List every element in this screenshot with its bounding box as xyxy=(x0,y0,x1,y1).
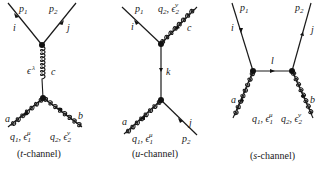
arrow-icon xyxy=(239,28,243,33)
label-p2: p2 xyxy=(181,133,191,146)
vertex xyxy=(289,68,295,74)
arrow-icon xyxy=(270,69,275,73)
label-p2: p2 xyxy=(48,3,58,16)
label-c: c xyxy=(51,66,56,77)
label-q1-eps1: q1, ϵ1μ xyxy=(252,111,273,126)
arrow-icon xyxy=(300,32,304,36)
label-a: a xyxy=(231,94,236,105)
arrow-icon xyxy=(159,68,163,72)
label-q2-eps2: q2, ϵ2ν xyxy=(158,1,180,16)
label-i: i xyxy=(13,22,16,33)
gluon-line-c xyxy=(41,46,46,98)
label-a: a xyxy=(5,113,10,124)
vertex xyxy=(40,95,46,101)
caption-s-channel: (s-channel) xyxy=(250,150,295,162)
s-channel-diagram: p1 p2 i j l a b q1, ϵ1μ q2, ϵ2ν (s-chann… xyxy=(231,2,315,162)
vertex xyxy=(39,42,45,48)
label-q1-eps1: q1, ϵ1μ xyxy=(132,131,153,146)
vertex xyxy=(158,41,164,47)
gluon-line-b xyxy=(42,96,83,128)
label-i: i xyxy=(231,22,234,33)
fermion-line-i xyxy=(232,3,253,71)
label-q2-eps2: q2, ϵ2ν xyxy=(281,111,303,126)
caption-u-channel: (u-channel) xyxy=(132,148,178,160)
label-j: j xyxy=(65,22,70,33)
label-b: b xyxy=(78,110,83,121)
label-b: b xyxy=(310,94,315,105)
label-c: c xyxy=(187,22,192,33)
label-j: j xyxy=(309,24,314,35)
label-p1: p1 xyxy=(239,2,249,15)
label-epsilon-lambda: ϵλ xyxy=(27,64,35,76)
vertex xyxy=(158,97,164,103)
label-p2: p2 xyxy=(294,2,304,15)
label-l: l xyxy=(271,55,274,66)
label-p1: p1 xyxy=(134,3,144,16)
t-channel-diagram: p1 p2 i j ϵλ c a b q1, ϵ1μ q2, ϵ2ν (t-ch… xyxy=(5,3,83,160)
label-i: i xyxy=(131,21,134,32)
label-k: k xyxy=(166,66,171,77)
gluon-line-a xyxy=(233,70,256,118)
label-q1-eps1: q1, ϵ1μ xyxy=(10,129,31,144)
label-q2-eps2: q2, ϵ2ν xyxy=(50,129,72,144)
caption-t-channel: (t-channel) xyxy=(17,148,61,160)
label-a: a xyxy=(122,116,127,127)
label-p1: p1 xyxy=(18,3,28,16)
feynman-diagrams-figure: p1 p2 i j ϵλ c a b q1, ϵ1μ q2, ϵ2ν (t-ch… xyxy=(0,0,317,181)
u-channel-diagram: p1 q2, ϵ2ν i c k a j q1, ϵ1μ p2 (u-chann… xyxy=(122,1,197,160)
vertex xyxy=(250,68,256,74)
